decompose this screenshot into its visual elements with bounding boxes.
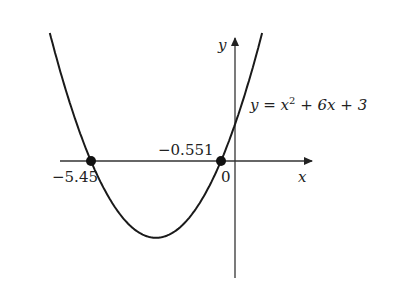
- root-label-left: −5.45: [52, 168, 98, 186]
- x-axis-label: x: [298, 168, 307, 186]
- root-point-left: [86, 156, 96, 166]
- equation-label: y = x2 + 6x + 3: [249, 95, 367, 114]
- parabola-chart: y x 0 −5.45 −0.551 y = x2 + 6x + 3: [0, 0, 402, 288]
- origin-label: 0: [221, 168, 231, 186]
- y-axis-label: y: [217, 36, 227, 54]
- root-point-right: [216, 156, 226, 166]
- parabola-curve: [50, 33, 262, 238]
- root-label-right: −0.551: [158, 141, 214, 159]
